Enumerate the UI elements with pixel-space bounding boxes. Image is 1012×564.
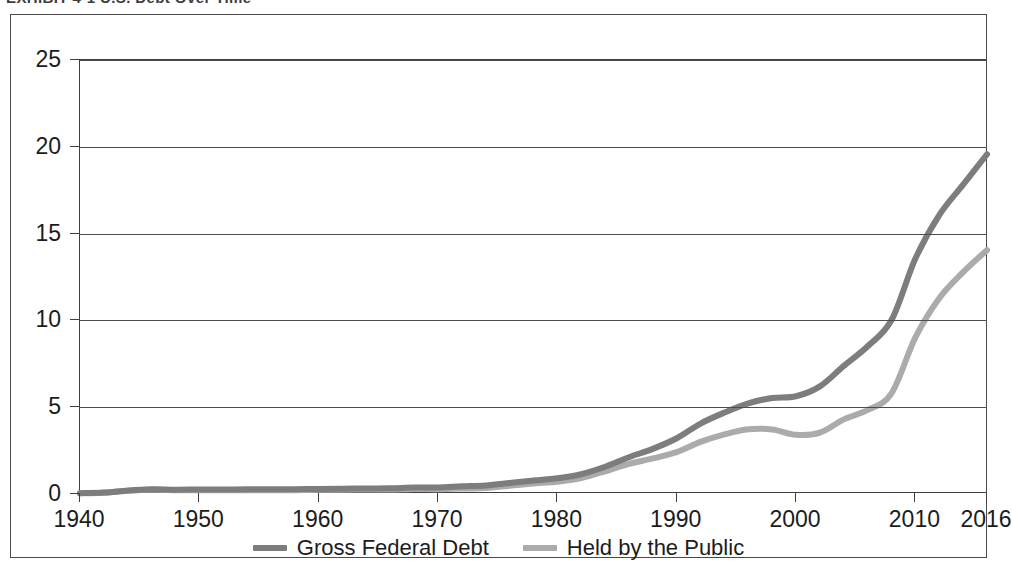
series-lines (80, 60, 987, 494)
x-tick-mark-2016 (986, 493, 987, 502)
x-tick-label-1960: 1960 (292, 506, 343, 533)
x-tick-label-1970: 1970 (411, 506, 462, 533)
legend-label-gross-federal-debt: Gross Federal Debt (297, 535, 489, 561)
x-tick-label-2010: 2010 (889, 506, 940, 533)
y-tick-label-10: 10 (35, 306, 61, 333)
x-tick-label-1980: 1980 (531, 506, 582, 533)
gridline-y-20 (80, 147, 987, 148)
legend-item-gross-federal-debt: Gross Federal Debt (253, 535, 489, 561)
x-tick-mark-1990 (676, 493, 677, 502)
y-tick-label-0: 0 (48, 480, 61, 507)
y-tick-label-5: 5 (48, 393, 61, 420)
legend-label-held-by-the-public: Held by the Public (567, 535, 744, 561)
x-tick-label-1950: 1950 (173, 506, 224, 533)
plot-area (79, 59, 986, 493)
figure-title-strip: EXHIBIT 4-1 U.S. Debt Over Time (0, 0, 997, 9)
y-tick-label-20: 20 (35, 132, 61, 159)
legend-swatch-gross-federal-debt (253, 545, 287, 551)
legend-item-held-by-the-public: Held by the Public (523, 535, 744, 561)
x-tick-label-2000: 2000 (769, 506, 820, 533)
series-line-held-by-the-public (80, 250, 987, 493)
x-tick-mark-1960 (318, 493, 319, 502)
x-tick-label-2016: 2016 (960, 506, 1011, 533)
gridline-y-10 (80, 320, 987, 321)
chart-legend: Gross Federal Debt Held by the Public (11, 535, 986, 561)
gridline-y-25 (80, 60, 987, 61)
x-tick-mark-1970 (437, 493, 438, 502)
y-tick-label-25: 25 (35, 46, 61, 73)
x-tick-mark-2010 (914, 493, 915, 502)
y-tick-mark-15 (70, 233, 80, 234)
y-tick-mark-25 (70, 59, 80, 60)
x-tick-mark-2000 (795, 493, 796, 502)
y-tick-label-15: 15 (35, 219, 61, 246)
y-tick-mark-10 (70, 319, 80, 320)
x-tick-mark-1950 (198, 493, 199, 502)
x-tick-label-1940: 1940 (53, 506, 104, 533)
gridline-y-5 (80, 407, 987, 408)
y-tick-mark-5 (70, 406, 80, 407)
legend-swatch-held-by-the-public (523, 545, 557, 551)
x-tick-mark-1980 (556, 493, 557, 502)
x-tick-label-1990: 1990 (650, 506, 701, 533)
figure-border: 0510152025 19401950196019701980199020002… (10, 14, 987, 558)
x-tick-mark-1940 (79, 493, 80, 502)
series-line-gross-federal-debt (80, 154, 987, 493)
plot-inner (80, 60, 986, 492)
figure-title: EXHIBIT 4-1 U.S. Debt Over Time (6, 0, 252, 6)
y-tick-mark-20 (70, 146, 80, 147)
gridline-y-15 (80, 234, 987, 235)
